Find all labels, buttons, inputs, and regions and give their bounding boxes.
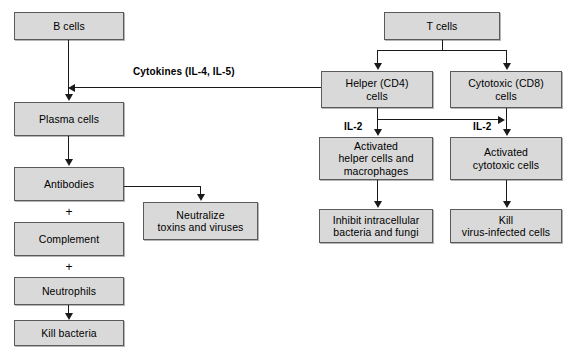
edge-label-il2-right: IL-2 [473, 121, 491, 133]
edge-label-il2-left: IL-2 [344, 121, 362, 133]
node-kill-bacteria-label: Kill bacteria [38, 327, 100, 340]
edge-plasma-to-antibodies [68, 136, 69, 160]
node-cytotoxic-cd8-cells: Cytotoxic (CD8) cells [450, 71, 562, 108]
edge-activatedhelper-to-inhibit [377, 180, 378, 202]
node-helper-cd4-cells: Helper (CD4) cells [321, 71, 433, 108]
edge-tcells-stem [442, 40, 443, 50]
edge-cytokines-arrowhead [68, 84, 75, 92]
node-cytotoxic-cd8-cells-label: Cytotoxic (CD8) cells [465, 77, 547, 102]
flowchart-canvas: B cells Plasma cells Antibodies + Comple… [0, 0, 570, 354]
node-helper-cd4-cells-label: Helper (CD4) cells [342, 77, 411, 102]
node-neutralize-toxins-viruses: Neutralize toxins and viruses [143, 202, 258, 240]
edge-bcells-to-plasma-arrowhead [65, 94, 73, 101]
node-complement: Complement [14, 222, 124, 256]
edge-plasma-to-antibodies-arrowhead [65, 159, 73, 166]
edge-cytokines-horizontal [75, 87, 321, 88]
node-plasma-cells-label: Plasma cells [36, 113, 102, 126]
edge-antibodies-to-neutralize-horizontal [124, 186, 201, 187]
node-complement-label: Complement [36, 233, 103, 246]
node-inhibit-intracellular-bacteria-fungi-label: Inhibit intracellular bacteria and fungi [330, 214, 423, 239]
edge-tcells-to-helper [377, 50, 378, 64]
node-b-cells-label: B cells [50, 20, 88, 33]
node-t-cells: T cells [384, 12, 500, 40]
node-kill-bacteria: Kill bacteria [14, 320, 124, 346]
edge-neutrophils-to-killbacteria-arrowhead [65, 313, 73, 320]
node-neutralize-toxins-viruses-label: Neutralize toxins and viruses [155, 209, 247, 234]
edge-tcells-to-cytotoxic [506, 50, 507, 64]
node-neutrophils: Neutrophils [14, 277, 124, 305]
node-t-cells-label: T cells [424, 20, 461, 33]
node-activated-helper-macrophages: Activated helper cells and macrophages [319, 137, 433, 180]
node-b-cells: B cells [14, 12, 124, 40]
node-plasma-cells: Plasma cells [14, 102, 124, 136]
node-inhibit-intracellular-bacteria-fungi: Inhibit intracellular bacteria and fungi [319, 209, 433, 243]
node-antibodies: Antibodies [14, 167, 124, 201]
operator-plus-complement-neutrophils: + [14, 261, 124, 273]
edge-antibodies-to-neutralize-arrowhead [197, 194, 205, 201]
edge-label-cytokines: Cytokines (IL-4, IL-5) [133, 66, 235, 78]
node-activated-cytotoxic-cells-label: Activated cytotoxic cells [470, 146, 542, 171]
edge-cytotoxic-to-activated-cytotoxic [506, 108, 507, 130]
edge-tcells-to-helper-arrowhead [374, 63, 382, 70]
edge-il2-crossbar [377, 119, 499, 120]
node-neutrophils-label: Neutrophils [39, 285, 99, 298]
edge-helper-to-activated-helper-arrowhead [374, 129, 382, 136]
edge-tcells-to-cytotoxic-arrowhead [503, 63, 511, 70]
edge-activatedcytotoxic-to-killvirus-arrowhead [503, 201, 511, 208]
node-activated-helper-macrophages-label: Activated helper cells and macrophages [335, 140, 416, 178]
edge-il2-crossbar-arrowhead [498, 116, 505, 124]
node-antibodies-label: Antibodies [41, 178, 97, 191]
node-kill-virus-infected-cells: Kill virus-infected cells [450, 209, 562, 243]
node-activated-cytotoxic-cells: Activated cytotoxic cells [450, 137, 562, 180]
node-kill-virus-infected-cells-label: Kill virus-infected cells [459, 214, 553, 239]
edge-tcells-branch-bar [377, 50, 507, 51]
edge-cytotoxic-to-activated-cytotoxic-arrowhead [503, 129, 511, 136]
edge-activatedhelper-to-inhibit-arrowhead [374, 201, 382, 208]
operator-plus-antibodies-complement: + [14, 206, 124, 218]
edge-activatedcytotoxic-to-killvirus [506, 180, 507, 202]
